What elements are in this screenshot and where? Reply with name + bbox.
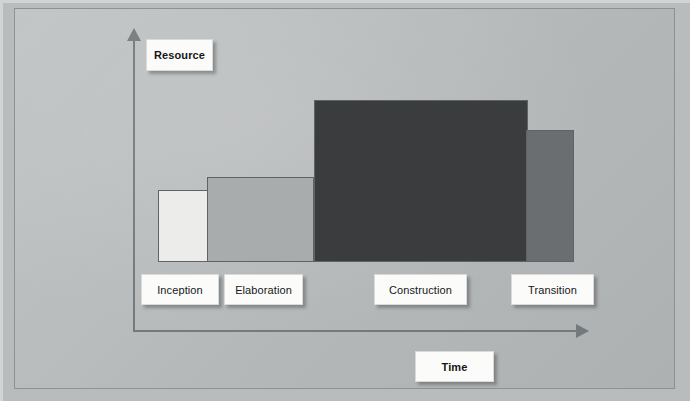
resource-axis-label: Resource [146, 39, 213, 71]
phase-label-transition: Transition [511, 274, 594, 305]
bar-transition [526, 130, 574, 262]
phase-label-construction: Construction [374, 274, 467, 305]
time-axis-line [133, 330, 588, 332]
resource-axis-line [133, 39, 135, 331]
bar-elaboration [207, 177, 314, 262]
bar-construction [314, 100, 528, 262]
phase-label-elaboration: Elaboration [224, 274, 303, 305]
diagram-panel: Resource Time Inception Elaboration Cons… [14, 8, 675, 389]
bar-inception [158, 190, 209, 262]
phase-label-inception: Inception [141, 274, 219, 305]
resource-axis-arrow-icon [127, 28, 141, 41]
time-axis-label: Time [415, 351, 494, 382]
slide-canvas: Resource Time Inception Elaboration Cons… [0, 0, 690, 401]
time-axis-arrow-icon [576, 324, 589, 338]
